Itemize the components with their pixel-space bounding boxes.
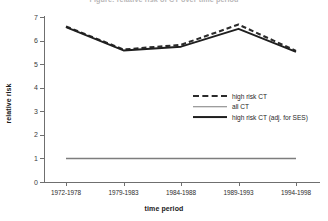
legend-swatch-icon <box>193 112 227 122</box>
chart-legend: high risk CTall CThigh risk CT (adj. for… <box>193 91 308 123</box>
legend-item: all CT <box>193 102 308 113</box>
legend-label: all CT <box>232 103 249 110</box>
x-axis-title: time period <box>0 205 328 212</box>
y-axis-title: relative risk <box>5 69 12 139</box>
legend-label: high risk CT <box>232 93 267 100</box>
legend-item: high risk CT <box>193 91 308 102</box>
legend-label: high risk CT (adj. for SES) <box>232 114 308 121</box>
chart-container: Figure: relative risk of CT over time pe… <box>0 0 328 221</box>
legend-item: high risk CT (adj. for SES) <box>193 112 308 123</box>
legend-swatch-icon <box>193 102 227 112</box>
legend-swatch-icon <box>193 91 227 101</box>
